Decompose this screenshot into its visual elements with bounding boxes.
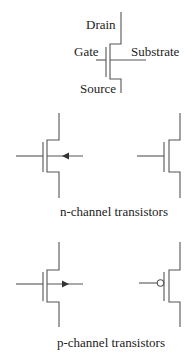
caption-n-channel: n-channel transistors	[60, 204, 168, 219]
label-source: Source	[80, 81, 116, 96]
generic-mosfet-symbol: Drain Gate Substrate Source	[74, 12, 180, 96]
nmos-symbol-with-substrate	[16, 113, 83, 198]
label-drain: Drain	[86, 17, 116, 32]
pmos-symbol-with-substrate	[16, 242, 83, 327]
nmos-symbol-simplified	[137, 113, 180, 198]
arrow-outward-icon	[62, 281, 69, 288]
label-gate: Gate	[74, 44, 99, 59]
pmos-symbol-simplified	[139, 242, 180, 327]
inversion-bubble-icon	[157, 280, 163, 286]
label-substrate: Substrate	[131, 44, 180, 59]
transistor-symbols-diagram: Drain Gate Substrate Source n-channel tr…	[0, 0, 194, 357]
caption-p-channel: p-channel transistors	[57, 335, 165, 350]
drain-source-path	[169, 242, 180, 327]
arrow-inward-icon	[62, 153, 69, 160]
drain-source-path	[169, 113, 180, 198]
